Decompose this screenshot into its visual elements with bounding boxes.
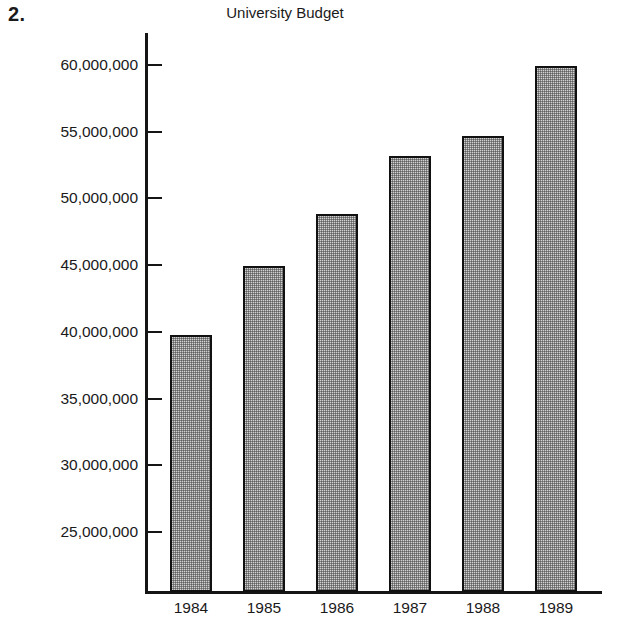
x-axis-tick-label: 1989	[516, 600, 596, 616]
y-axis-tick-label: 50,000,000	[10, 190, 138, 206]
y-axis-tick	[148, 398, 162, 400]
figure-root: 2. University Budget 60,000,00055,000,00…	[0, 0, 621, 629]
bar	[243, 266, 285, 592]
y-axis-tick-label-wrap: 60,000,000	[6, 57, 138, 73]
y-axis-tick-label: 30,000,000	[10, 457, 138, 473]
y-axis-tick	[148, 464, 162, 466]
bar	[462, 136, 504, 592]
y-axis-tick	[148, 197, 162, 199]
y-axis-tick-label: 40,000,000	[10, 324, 138, 340]
y-axis-tick-label: 55,000,000	[10, 124, 138, 140]
y-axis-tick	[148, 64, 162, 66]
x-axis-tick-label: 1987	[370, 600, 450, 616]
bar	[389, 156, 431, 592]
y-axis-tick-label-wrap: 55,000,000	[6, 124, 138, 140]
x-axis-tick-label: 1985	[224, 600, 304, 616]
y-axis-tick-label: 35,000,000	[10, 391, 138, 407]
plot-area: 60,000,00055,000,00050,000,00045,000,000…	[0, 0, 621, 629]
x-axis-tick-label: 1986	[297, 600, 377, 616]
y-axis-tick-label-wrap: 30,000,000	[6, 457, 138, 473]
y-axis-tick-label-wrap: 25,000,000	[6, 524, 138, 540]
bar	[316, 214, 358, 592]
y-axis-tick-label-wrap: 45,000,000	[6, 257, 138, 273]
x-axis-line	[145, 591, 602, 594]
x-axis-tick-label: 1984	[151, 600, 231, 616]
y-axis-tick	[148, 131, 162, 133]
y-axis-tick-label: 60,000,000	[10, 57, 138, 73]
bar	[170, 335, 212, 592]
x-axis-tick-label: 1988	[443, 600, 523, 616]
y-axis-tick	[148, 264, 162, 266]
y-axis-tick-label-wrap: 40,000,000	[6, 324, 138, 340]
y-axis-line	[145, 33, 148, 594]
bar	[535, 66, 577, 592]
y-axis-tick-label: 45,000,000	[10, 257, 138, 273]
y-axis-tick	[148, 331, 162, 333]
y-axis-tick-label: 25,000,000	[10, 524, 138, 540]
y-axis-tick	[148, 531, 162, 533]
y-axis-tick-label-wrap: 35,000,000	[6, 391, 138, 407]
y-axis-tick-label-wrap: 50,000,000	[6, 190, 138, 206]
